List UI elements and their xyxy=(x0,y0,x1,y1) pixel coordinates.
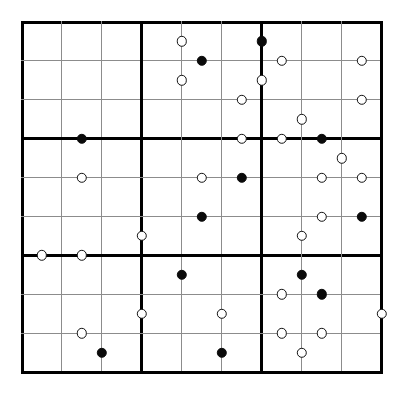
white-dot[interactable] xyxy=(276,56,286,66)
white-dot[interactable] xyxy=(336,153,346,163)
white-dot[interactable] xyxy=(296,114,306,124)
grid-line-vertical-thick xyxy=(260,21,263,374)
grid-line-horizontal-thin xyxy=(21,99,384,100)
grid-line-vertical-thick xyxy=(140,21,143,374)
grid-line-horizontal-thick xyxy=(21,21,384,24)
white-dot[interactable] xyxy=(77,328,87,338)
grid-line-vertical-thick xyxy=(380,21,383,374)
white-dot[interactable] xyxy=(256,75,266,85)
black-dot[interactable] xyxy=(256,36,266,46)
white-dot[interactable] xyxy=(376,309,386,319)
grid-line-vertical-thin xyxy=(301,21,302,374)
puzzle-canvas xyxy=(0,0,402,393)
black-dot[interactable] xyxy=(237,172,247,182)
white-dot[interactable] xyxy=(217,309,227,319)
sudoku-grid[interactable] xyxy=(22,22,382,372)
black-dot[interactable] xyxy=(296,270,306,280)
white-dot[interactable] xyxy=(296,347,306,357)
white-dot[interactable] xyxy=(356,172,366,182)
white-dot[interactable] xyxy=(177,36,187,46)
white-dot[interactable] xyxy=(137,231,147,241)
grid-line-vertical-thick xyxy=(21,21,24,374)
white-dot[interactable] xyxy=(276,289,286,299)
black-dot[interactable] xyxy=(197,211,207,221)
grid-line-horizontal-thin xyxy=(21,294,384,295)
white-dot[interactable] xyxy=(37,250,47,260)
grid-line-horizontal-thick xyxy=(21,254,384,257)
white-dot[interactable] xyxy=(276,328,286,338)
black-dot[interactable] xyxy=(77,133,87,143)
white-dot[interactable] xyxy=(77,250,87,260)
white-dot[interactable] xyxy=(177,75,187,85)
grid-line-vertical-thin xyxy=(61,21,62,374)
white-dot[interactable] xyxy=(237,133,247,143)
white-dot[interactable] xyxy=(237,95,247,105)
black-dot[interactable] xyxy=(316,289,326,299)
white-dot[interactable] xyxy=(197,172,207,182)
black-dot[interactable] xyxy=(316,133,326,143)
white-dot[interactable] xyxy=(276,133,286,143)
grid-line-vertical-thin xyxy=(181,21,182,374)
grid-line-horizontal-thin xyxy=(21,333,384,334)
white-dot[interactable] xyxy=(77,172,87,182)
white-dot[interactable] xyxy=(356,95,366,105)
black-dot[interactable] xyxy=(97,347,107,357)
white-dot[interactable] xyxy=(296,231,306,241)
black-dot[interactable] xyxy=(197,56,207,66)
white-dot[interactable] xyxy=(316,328,326,338)
white-dot[interactable] xyxy=(316,172,326,182)
white-dot[interactable] xyxy=(316,211,326,221)
grid-line-vertical-thin xyxy=(101,21,102,374)
grid-line-vertical-thin xyxy=(221,21,222,374)
white-dot[interactable] xyxy=(137,309,147,319)
grid-line-vertical-thin xyxy=(341,21,342,374)
black-dot[interactable] xyxy=(177,270,187,280)
black-dot[interactable] xyxy=(217,347,227,357)
grid-line-horizontal-thick xyxy=(21,371,384,374)
black-dot[interactable] xyxy=(356,211,366,221)
grid-line-horizontal-thick xyxy=(21,137,384,140)
white-dot[interactable] xyxy=(356,56,366,66)
